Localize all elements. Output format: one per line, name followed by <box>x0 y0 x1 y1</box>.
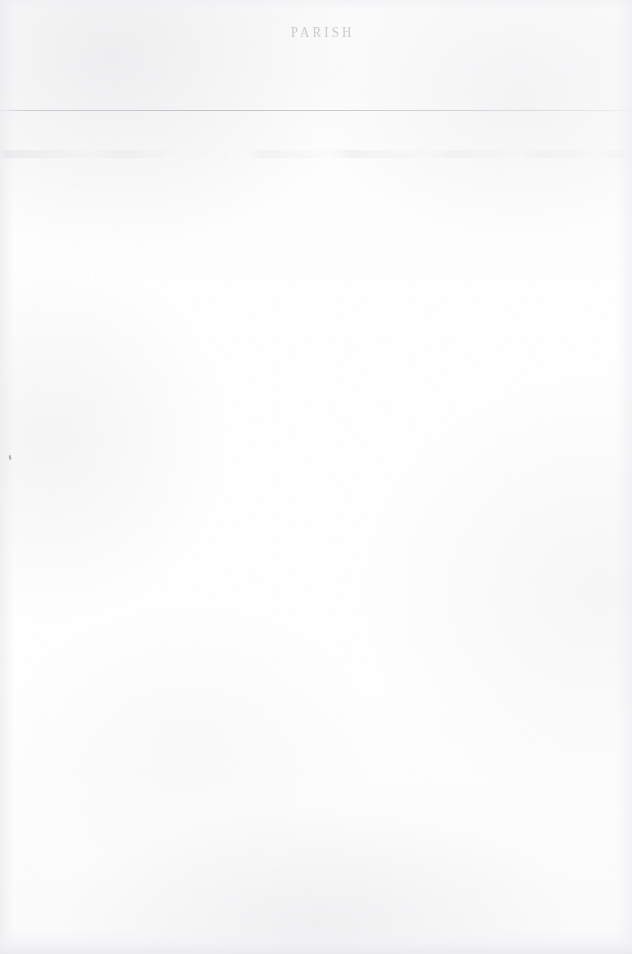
header-word-3: PARISH <box>291 25 355 42</box>
page-edge-shadow-right <box>616 0 632 954</box>
paper-grain-texture <box>0 0 632 954</box>
scanned-document-page: PARISH <box>0 0 632 954</box>
page-header: PARISH <box>0 23 632 41</box>
faded-text-row <box>0 150 632 158</box>
page-edge-shadow-left <box>0 0 14 954</box>
page-edge-shadow-top <box>0 0 632 10</box>
page-header-text: PARISH <box>264 25 368 42</box>
page-edge-shadow-bottom <box>0 928 632 954</box>
horizontal-rule-top <box>0 110 632 111</box>
